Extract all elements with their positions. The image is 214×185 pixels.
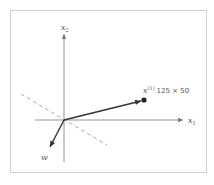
w-vector-arrow (50, 120, 64, 147)
x1-axis-label: x1 (188, 116, 196, 126)
x2-axis-label: x2 (61, 23, 69, 33)
vector-diagram: x2 x1 x(1)125 × 50 w (0, 0, 214, 185)
point-x1-dot (141, 97, 146, 102)
w-vector-label: w (41, 153, 48, 162)
point-vector-arrow (64, 101, 141, 120)
point-label: x(1)125 × 50 (143, 85, 189, 95)
